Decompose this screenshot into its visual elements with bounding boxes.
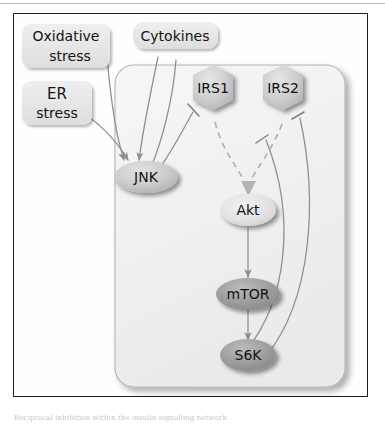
stimulus-cytokines[interactable]: Cytokines — [133, 22, 218, 49]
node-jnk[interactable]: JNK — [114, 161, 178, 193]
figure-root: Oxidative stress ER stress Cytokines IRS… — [0, 0, 385, 426]
node-akt[interactable]: Akt — [220, 194, 276, 226]
stimulus-oxidative-stress[interactable]: Oxidative stress — [22, 24, 110, 68]
figure-caption: Reciprocal inhibition within the insulin… — [14, 414, 354, 422]
node-mtor[interactable]: mTOR — [216, 278, 280, 310]
pathway-diagram: Oxidative stress ER stress Cytokines IRS… — [0, 0, 385, 426]
node-s6k[interactable]: S6K — [220, 339, 276, 371]
cell-boundary — [115, 65, 345, 387]
stimulus-er-stress[interactable]: ER stress — [22, 81, 92, 125]
